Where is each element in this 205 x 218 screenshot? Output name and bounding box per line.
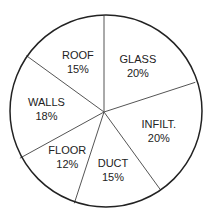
slice-label-walls: WALLS	[28, 96, 65, 108]
slice-label-duct: DUCT	[98, 157, 129, 169]
pie-labels: GLASS20%INFILT.20%DUCT15%FLOOR12%WALLS18…	[28, 49, 176, 183]
slice-value-walls: 18%	[35, 110, 57, 122]
slice-label-floor: FLOOR	[48, 144, 86, 156]
pie-chart: GLASS20%INFILT.20%DUCT15%FLOOR12%WALLS18…	[0, 0, 205, 218]
slice-value-infilt: 20%	[148, 132, 170, 144]
slice-value-duct: 15%	[102, 171, 124, 183]
slice-value-glass: 20%	[127, 67, 149, 79]
slice-value-roof: 15%	[67, 63, 89, 75]
slice-label-infilt: INFILT.	[141, 118, 176, 130]
slice-value-floor: 12%	[56, 158, 78, 170]
slice-label-roof: ROOF	[62, 49, 94, 61]
slice-divider	[104, 82, 195, 112]
slice-label-glass: GLASS	[120, 53, 157, 65]
figure-caption-cutoff	[14, 211, 174, 218]
